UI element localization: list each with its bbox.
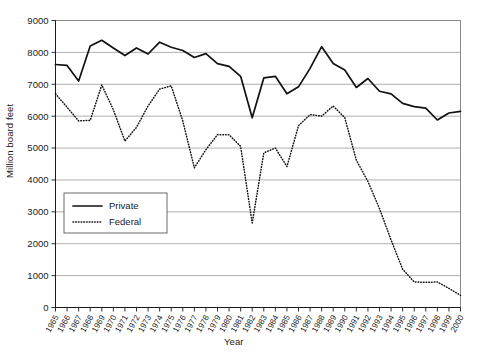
y-axis-tick-label: 8000 [27, 47, 48, 58]
y-axis-tick-label: 1000 [27, 270, 48, 281]
y-axis-title: Million board feet [4, 104, 15, 178]
y-axis-tick-label: 6000 [27, 111, 48, 122]
y-axis-tick-label: 4000 [27, 174, 48, 185]
y-axis-tick-label: 5000 [27, 142, 48, 153]
legend-label-private: Private [109, 200, 139, 211]
y-axis-ticks: 9000800070006000500040003000200010000 [27, 15, 55, 313]
y-axis-tick-label: 9000 [27, 15, 48, 26]
legend-label-federal: Federal [109, 216, 141, 227]
chart-legend: PrivateFederal [64, 193, 167, 233]
y-axis-tick-label: 3000 [27, 206, 48, 217]
x-axis-title: Year [224, 336, 244, 347]
gridlines-group [56, 21, 461, 276]
plot-frame [56, 21, 461, 308]
chart-container: 9000800070006000500040003000200010000 19… [0, 0, 477, 355]
x-axis-tick-label: 2000 [449, 313, 466, 334]
y-axis-tick-label: 7000 [27, 79, 48, 90]
plot-border [56, 21, 461, 308]
line-chart-plot: 9000800070006000500040003000200010000 19… [0, 0, 477, 355]
x-axis-ticks: 1965196619671968196919701971197219731974… [44, 308, 466, 334]
data-series-group [56, 40, 461, 295]
y-axis-tick-label: 2000 [27, 238, 48, 249]
y-axis-tick-label: 0 [43, 302, 48, 313]
